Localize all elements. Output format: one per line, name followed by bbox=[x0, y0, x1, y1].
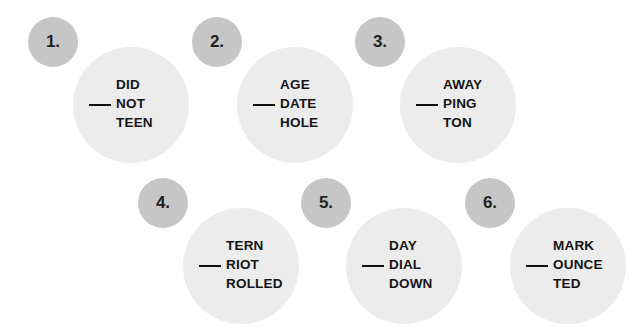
word: MARK bbox=[553, 236, 603, 255]
word: DAY bbox=[389, 236, 433, 255]
puzzle-number: 1. bbox=[28, 17, 78, 67]
puzzle-number: 5. bbox=[301, 178, 351, 228]
puzzle-number: 4. bbox=[138, 178, 188, 228]
puzzle-2: 2. AGE DATE HOLE bbox=[192, 17, 372, 177]
word-list: AGE DATE HOLE bbox=[280, 75, 318, 132]
puzzle-number: 6. bbox=[465, 178, 515, 228]
word: DIAL bbox=[389, 255, 433, 274]
word: OUNCE bbox=[553, 255, 603, 274]
word-list: MARK OUNCE TED bbox=[553, 236, 603, 293]
word: TON bbox=[443, 113, 482, 132]
word-list: DAY DIAL DOWN bbox=[389, 236, 433, 293]
blank-line bbox=[362, 265, 384, 267]
word: TEEN bbox=[116, 113, 153, 132]
word-list: TERN RIOT ROLLED bbox=[226, 236, 283, 293]
word: AGE bbox=[280, 75, 318, 94]
word: DATE bbox=[280, 94, 318, 113]
word: PING bbox=[443, 94, 482, 113]
word: AWAY bbox=[443, 75, 482, 94]
word-list: AWAY PING TON bbox=[443, 75, 482, 132]
blank-line bbox=[526, 265, 548, 267]
word: DOWN bbox=[389, 274, 433, 293]
puzzle-1: 1. DID NOT TEEN bbox=[28, 17, 208, 177]
word: DID bbox=[116, 75, 153, 94]
word: RIOT bbox=[226, 255, 283, 274]
word-list: DID NOT TEEN bbox=[116, 75, 153, 132]
puzzle-number: 2. bbox=[192, 17, 242, 67]
puzzle-4: 4. TERN RIOT ROLLED bbox=[138, 178, 318, 329]
word: NOT bbox=[116, 94, 153, 113]
blank-line bbox=[253, 104, 275, 106]
word: TED bbox=[553, 274, 603, 293]
blank-line bbox=[416, 104, 438, 106]
puzzle-3: 3. AWAY PING TON bbox=[355, 17, 535, 177]
word: TERN bbox=[226, 236, 283, 255]
blank-line bbox=[89, 104, 111, 106]
word: ROLLED bbox=[226, 274, 283, 293]
puzzle-5: 5. DAY DIAL DOWN bbox=[301, 178, 481, 329]
puzzle-6: 6. MARK OUNCE TED bbox=[465, 178, 630, 329]
word: HOLE bbox=[280, 113, 318, 132]
puzzle-number: 3. bbox=[355, 17, 405, 67]
blank-line bbox=[199, 265, 221, 267]
